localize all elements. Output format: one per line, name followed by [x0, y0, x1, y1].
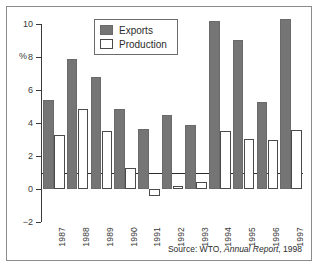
y-axis-tick [36, 90, 41, 91]
bar-production-1989 [102, 131, 113, 189]
y-axis-tick [36, 123, 41, 124]
y-axis-tick-label: 2 [28, 152, 33, 161]
y-axis-tick-label: 8 [28, 53, 33, 62]
x-axis-label-1990: 1990 [129, 227, 139, 247]
source-suffix: , 1998 [278, 244, 302, 254]
y-axis-unit-label: % [19, 51, 27, 61]
bar-exports-1992 [162, 115, 173, 189]
bar-production-1987 [54, 135, 65, 189]
bar-production-1988 [78, 109, 89, 189]
source-italic-title: Annual Report [224, 244, 278, 254]
bar-production-1996 [268, 140, 279, 189]
bar-exports-1997 [280, 19, 291, 189]
legend-label-exports: Exports [119, 25, 153, 36]
y-axis-tick [36, 222, 41, 223]
source-prefix: Source: WTO, [168, 244, 224, 254]
bar-group: 1993 [184, 24, 208, 222]
y-axis-tick-label: 0 [28, 185, 33, 194]
x-axis-label-1988: 1988 [81, 227, 91, 247]
bar-exports-1996 [257, 102, 268, 189]
chart-legend: Exports Production [94, 19, 178, 55]
bar-exports-1988 [67, 59, 78, 189]
y-axis-tick-label: 4 [28, 119, 33, 128]
x-axis-label-1991: 1991 [152, 227, 162, 247]
legend-item-production: Production [100, 37, 167, 51]
bar-production-1990 [125, 168, 136, 189]
bar-group: 1997 [279, 24, 303, 222]
bar-group: 1995 [232, 24, 256, 222]
bar-group: 1994 [208, 24, 232, 222]
y-axis-tick [36, 189, 41, 190]
bar-production-1993 [196, 182, 207, 189]
bar-exports-1990 [114, 109, 125, 189]
bar-production-1994 [220, 131, 231, 189]
chart-frame: % −20246810 1987198819891990199119921993… [6, 6, 312, 261]
y-axis-tick [36, 156, 41, 157]
bar-exports-1994 [209, 21, 220, 189]
x-axis-label-1987: 1987 [57, 227, 67, 247]
x-axis-label-1989: 1989 [105, 227, 115, 247]
y-axis-tick [36, 24, 41, 25]
legend-swatch-exports [100, 25, 113, 35]
bar-exports-1995 [233, 40, 244, 189]
bar-production-1997 [291, 130, 302, 189]
bar-exports-1987 [43, 100, 54, 189]
bar-exports-1991 [138, 129, 149, 189]
y-axis-tick-label: −2 [23, 218, 33, 227]
legend-item-exports: Exports [100, 23, 167, 37]
bar-group: 1987 [42, 24, 66, 222]
y-axis-tick-label: 10 [23, 20, 33, 29]
y-axis-tick-label: 6 [28, 86, 33, 95]
legend-label-production: Production [119, 39, 167, 50]
bar-production-1992 [173, 186, 184, 189]
bar-exports-1989 [91, 77, 102, 189]
source-caption: Source: WTO, Annual Report, 1998 [168, 244, 302, 254]
legend-swatch-production [100, 39, 113, 49]
bar-group: 1996 [256, 24, 280, 222]
bar-exports-1993 [185, 125, 196, 189]
bar-production-1991 [149, 189, 160, 196]
bar-production-1995 [244, 139, 255, 189]
y-axis-tick [36, 57, 41, 58]
bar-group: 1988 [66, 24, 90, 222]
